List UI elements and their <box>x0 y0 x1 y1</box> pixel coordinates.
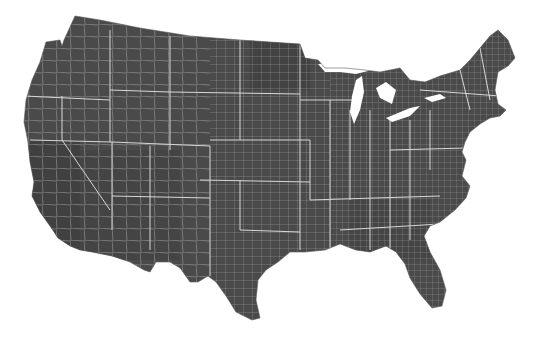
map-container <box>0 0 543 347</box>
us-county-map <box>0 0 543 347</box>
counties-west <box>0 0 210 347</box>
counties-central <box>210 0 330 347</box>
land-layer <box>0 0 543 347</box>
counties-east <box>330 0 543 347</box>
